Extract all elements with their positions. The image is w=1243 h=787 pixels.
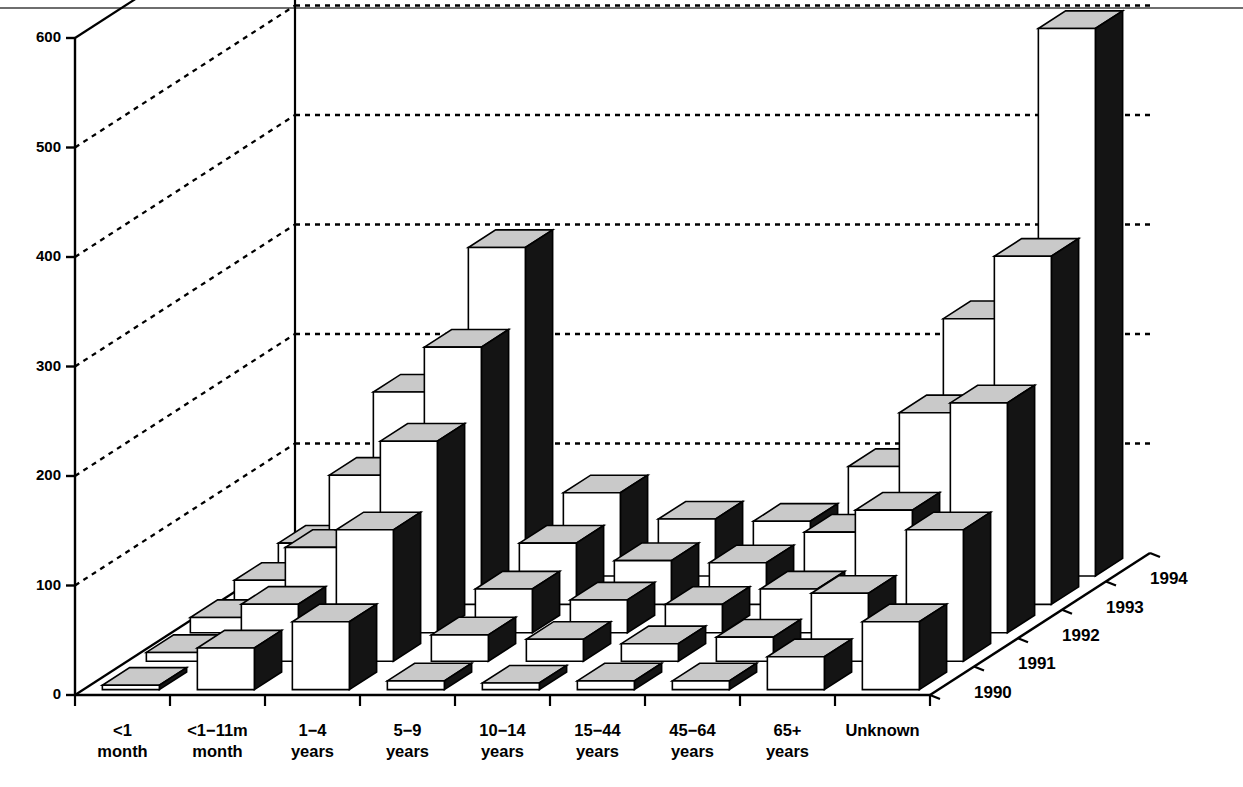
bar-1990-cat3-front xyxy=(387,681,444,690)
x-category-label-8: Unknown xyxy=(813,720,953,741)
y-tick-label-200: 200 xyxy=(36,466,61,483)
bar-1990-cat4 xyxy=(482,665,566,689)
bar-1990-cat4-front xyxy=(482,683,539,690)
y-tick-label-300: 300 xyxy=(36,357,61,374)
z-tick-1 xyxy=(974,667,984,671)
z-tick-4 xyxy=(1106,581,1116,585)
bar-1990-cat0-front xyxy=(102,685,159,689)
z-year-label-1994: 1994 xyxy=(1150,569,1188,589)
bar-1993-cat2-side xyxy=(481,329,508,604)
bar-1990-cat0 xyxy=(102,668,186,690)
bar-1990-cat8-front xyxy=(862,622,919,690)
bar-1991-cat3-front xyxy=(431,635,488,661)
bar-1990-cat8 xyxy=(862,604,946,689)
bar-1994-cat2-side xyxy=(525,230,552,576)
y-tick-label-400: 400 xyxy=(36,247,61,264)
bar-1991-cat0-front xyxy=(146,652,203,661)
bar-1992-cat2-side xyxy=(437,424,464,633)
bar-1991-cat2-side xyxy=(393,512,420,661)
bar-1990-cat5 xyxy=(577,663,661,689)
y-tick-label-0: 0 xyxy=(53,685,61,702)
gridline-side-300 xyxy=(75,225,295,367)
bar-1991-cat8-side xyxy=(963,512,990,661)
z-tick-5 xyxy=(1150,553,1160,557)
chart-figure: 0100200300400500600<1month<1−11mmonth1−4… xyxy=(0,0,1243,787)
bar-1991-cat5 xyxy=(621,626,705,661)
gridline-side-500 xyxy=(75,6,295,148)
bar-1994-cat8-side xyxy=(1095,11,1122,576)
bar-1993-cat8-side xyxy=(1051,239,1078,605)
gridline-side-200 xyxy=(75,334,295,476)
z-year-label-1992: 1992 xyxy=(1062,626,1100,646)
bar-1990-cat1 xyxy=(197,630,281,689)
bar-1991-cat5-front xyxy=(621,644,678,662)
ceiling-left-edge xyxy=(75,0,295,38)
gridline-side-400 xyxy=(75,115,295,257)
bar-1990-cat3 xyxy=(387,663,471,689)
z-year-label-1990: 1990 xyxy=(974,683,1012,703)
y-tick-label-100: 100 xyxy=(36,576,61,593)
x-category-label-line2-7: years xyxy=(718,741,858,762)
bar-1991-cat6-front xyxy=(716,637,773,661)
bar-1990-cat6 xyxy=(672,663,756,689)
bar-1991-cat4-front xyxy=(526,639,583,661)
y-tick-label-500: 500 xyxy=(36,138,61,155)
three-d-bar-chart-canvas xyxy=(0,0,1243,787)
bar-1990-cat6-front xyxy=(672,681,729,690)
bar-1990-cat7-front xyxy=(767,657,824,690)
bar-1990-cat5-front xyxy=(577,681,634,690)
bars-group xyxy=(102,11,1122,690)
z-tick-2 xyxy=(1018,638,1028,642)
bar-1990-cat1-front xyxy=(197,648,254,690)
z-tick-0 xyxy=(930,695,940,699)
bar-1990-cat2 xyxy=(292,604,376,689)
x-category-label-line1-8: Unknown xyxy=(813,720,953,741)
z-year-label-1993: 1993 xyxy=(1106,598,1144,618)
bar-1992-cat8-side xyxy=(1007,385,1034,633)
z-year-label-1991: 1991 xyxy=(1018,654,1056,674)
z-tick-3 xyxy=(1062,610,1072,614)
bar-1990-cat2-front xyxy=(292,622,349,690)
y-tick-label-600: 600 xyxy=(36,28,61,45)
